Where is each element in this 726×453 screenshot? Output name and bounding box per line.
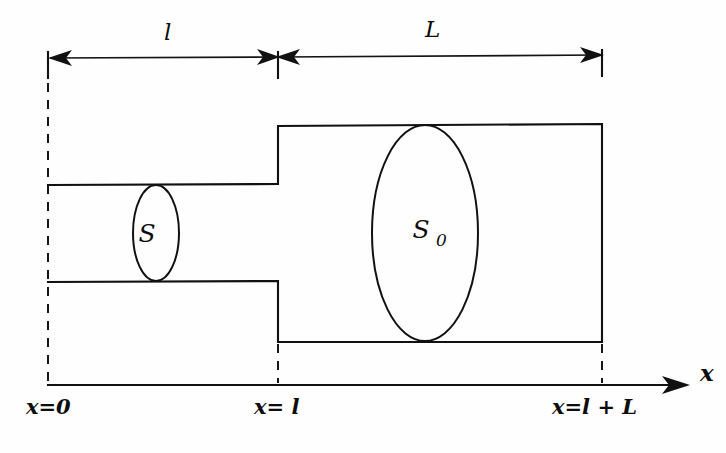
upper-wall-profile: [48, 124, 602, 342]
x-axis-tick-junction: x= l: [253, 394, 299, 419]
dimension-l-label: l: [164, 19, 171, 45]
chamber-area-subscript: 0: [436, 230, 447, 250]
figure-root: l L S S 0: [0, 0, 726, 453]
x-axis-name: x: [699, 359, 714, 386]
resonator-outline-group: [48, 124, 602, 342]
dimension-L: [276, 47, 604, 76]
dimension-L-label: L: [424, 16, 440, 42]
lower-wall-profile: [48, 281, 602, 342]
dimension-l: [48, 49, 280, 78]
reference-dashed-lines-group: [48, 66, 602, 383]
dimension-l-line: [50, 57, 276, 58]
cross-section-ellipses-group: S S 0: [133, 125, 478, 341]
chamber-area-symbol: S: [412, 215, 429, 244]
dimension-lines-group: l L: [48, 16, 604, 78]
neck-area-label: S: [138, 219, 155, 248]
x-axis-group: x x=0 x= l x=l + L: [25, 359, 714, 419]
diagram-canvas: l L S S 0: [0, 0, 726, 453]
dimension-L-line: [280, 55, 600, 57]
x-axis-tick-origin: x=0: [25, 394, 71, 419]
x-axis-tick-end: x=l + L: [551, 394, 637, 419]
